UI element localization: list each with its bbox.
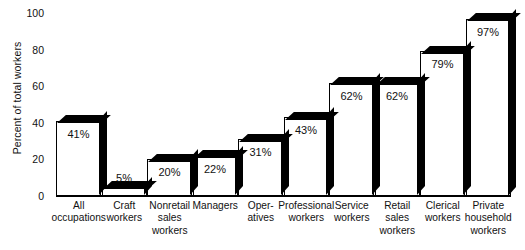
bar-group: 79% <box>420 13 466 196</box>
bar[interactable] <box>284 117 329 196</box>
bar-top-face <box>148 154 202 162</box>
bar-group: 5% <box>102 13 148 196</box>
bar-group: 97% <box>466 13 512 196</box>
bar-group: 62% <box>329 13 375 196</box>
x-category-label-line: Private <box>460 200 518 212</box>
plot-area: 41%5%20%22%31%43%62%62%79%97% <box>56 13 511 196</box>
bar-top-face <box>467 13 521 21</box>
bar-top-face <box>376 77 430 85</box>
bar-top-face <box>285 112 339 120</box>
bar[interactable] <box>329 83 374 196</box>
bar-side-face <box>508 9 516 195</box>
bar-top-face <box>103 181 157 189</box>
bar-chart: Percent of total workers 100806040200 41… <box>0 0 525 250</box>
y-tick-label: 100 <box>26 7 44 19</box>
y-tick-label: 20 <box>32 153 44 165</box>
bar[interactable] <box>420 51 465 196</box>
bar[interactable] <box>238 139 283 196</box>
y-tick-label: 0 <box>38 190 44 202</box>
x-axis-category-labels: AlloccupationsCraftworkersNonretailsales… <box>56 200 511 250</box>
y-tick-label: 40 <box>32 117 44 129</box>
y-axis-tick-labels: 100806040200 <box>0 0 52 250</box>
bar-group: 22% <box>193 13 239 196</box>
bar[interactable] <box>193 156 238 196</box>
bar[interactable] <box>375 83 420 196</box>
bar-side-face <box>417 73 425 195</box>
bar-group: 62% <box>375 13 421 196</box>
bar-top-face <box>421 46 475 54</box>
bar-group: 20% <box>147 13 193 196</box>
bar-top-face <box>57 115 111 123</box>
bar-group: 31% <box>238 13 284 196</box>
x-category-label: Privatehouseholdworkers <box>460 200 518 237</box>
bar[interactable] <box>102 187 147 196</box>
bar-top-face <box>330 77 384 85</box>
x-category-label-line: workers <box>141 225 199 237</box>
x-category-label-line: household <box>460 212 518 224</box>
x-category-label-line: workers <box>369 225 427 237</box>
y-tick-label: 80 <box>32 44 44 56</box>
x-category-label-line: workers <box>460 225 518 237</box>
bar-side-face <box>372 73 380 195</box>
bar[interactable] <box>147 159 192 196</box>
bar-group: 43% <box>284 13 330 196</box>
bar[interactable] <box>56 121 101 196</box>
bar-group: 41% <box>56 13 102 196</box>
y-tick-label: 60 <box>32 80 44 92</box>
bar-top-face <box>239 134 293 142</box>
bar-side-face <box>99 111 107 195</box>
bar-side-face <box>326 107 334 195</box>
x-category-label-line: sales <box>141 212 199 224</box>
bar-side-face <box>463 42 471 195</box>
